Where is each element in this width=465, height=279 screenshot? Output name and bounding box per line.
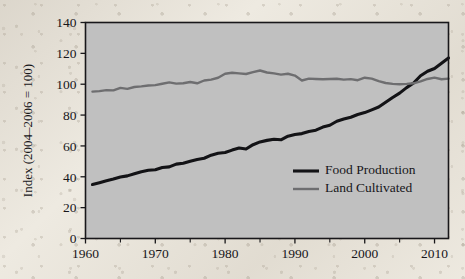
y-tick-label-40: 40 xyxy=(63,170,77,185)
y-tick-label-0: 0 xyxy=(70,231,77,246)
legend-label-land-cultivated: Land Cultivated xyxy=(325,180,413,195)
x-tick-label-2010: 2010 xyxy=(421,246,448,261)
x-tick-label-1960: 1960 xyxy=(72,246,99,261)
x-tick-label-1970: 1970 xyxy=(142,246,169,261)
y-tick-label-80: 80 xyxy=(63,108,77,123)
y-tick-label-20: 20 xyxy=(63,200,77,215)
x-tick-label-2000: 2000 xyxy=(351,246,378,261)
chart-container: 0204060801001201401960197019801990200020… xyxy=(0,0,465,279)
y-axis-title: Index (2004–2006 = 100) xyxy=(20,64,35,197)
y-tick-label-100: 100 xyxy=(56,77,77,92)
plot-texture-overlay xyxy=(86,23,449,239)
y-axis-title-label: Index (2004–2006 = 100) xyxy=(20,64,35,197)
legend-label-food-production: Food Production xyxy=(325,162,416,177)
plot-background xyxy=(86,23,449,239)
line-chart: 0204060801001201401960197019801990200020… xyxy=(0,0,465,279)
x-tick-label-1990: 1990 xyxy=(281,246,308,261)
y-tick-label-60: 60 xyxy=(63,139,77,154)
y-tick-label-140: 140 xyxy=(56,15,77,30)
y-tick-label-120: 120 xyxy=(56,46,77,61)
x-tick-label-1980: 1980 xyxy=(212,246,239,261)
